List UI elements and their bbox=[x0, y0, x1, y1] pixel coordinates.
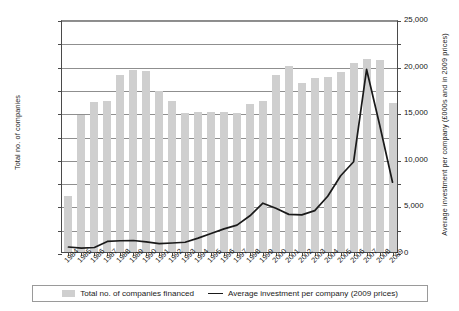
chart-legend: Total no. of companies financed Average … bbox=[32, 285, 428, 302]
y-axis-left-title: Total no. of companies bbox=[13, 58, 22, 208]
y-axis-right-tick-label: 25,000 bbox=[404, 16, 428, 24]
line-swatch-icon bbox=[208, 293, 223, 294]
plot-area bbox=[61, 20, 398, 253]
y-axis-left-tick bbox=[58, 254, 62, 255]
y-axis-right-tick-label: 15,000 bbox=[404, 109, 428, 117]
y-axis-right-title: Average investment per company (£000s an… bbox=[440, 0, 449, 275]
line-series bbox=[62, 21, 399, 254]
y-axis-right-tick-label: 10,000 bbox=[404, 156, 428, 164]
y-axis-right-tick-label: 5,000 bbox=[404, 202, 424, 210]
bar-swatch-icon bbox=[62, 290, 75, 297]
legend-label-bars: Total no. of companies financed bbox=[80, 289, 194, 298]
chart-figure: Total no. of companies Average investmen… bbox=[0, 0, 459, 311]
y-axis-right-tick-label: 20,000 bbox=[404, 63, 428, 71]
legend-item-bars: Total no. of companies financed bbox=[62, 289, 194, 298]
legend-label-line: Average investment per company (2009 pri… bbox=[228, 289, 398, 298]
legend-item-line: Average investment per company (2009 pri… bbox=[208, 289, 398, 298]
